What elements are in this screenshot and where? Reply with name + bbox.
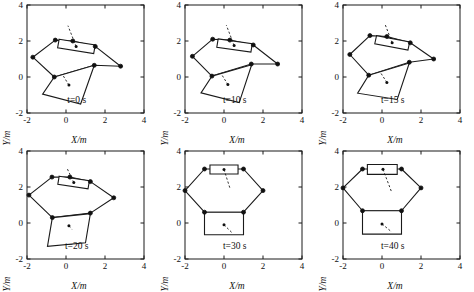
y-tick-label: 0 bbox=[19, 218, 24, 228]
x-tick-label: 2 bbox=[103, 115, 108, 125]
plot-panel-40s: -2024-2024t=40 sX/mY/m bbox=[316, 146, 474, 292]
joint-marker-core bbox=[51, 176, 53, 178]
y-tick-label: -2 bbox=[332, 108, 340, 118]
x-axis-label: X/m bbox=[158, 135, 316, 145]
joint-marker-core bbox=[53, 76, 55, 78]
x-tick-label: 2 bbox=[419, 115, 424, 125]
y-tick-label: -2 bbox=[16, 108, 24, 118]
x-tick-label: 2 bbox=[103, 261, 108, 271]
lower-platform bbox=[358, 63, 410, 100]
time-stamp-label: t=15 s bbox=[381, 95, 405, 105]
y-tick-label: 0 bbox=[177, 72, 182, 82]
plot-canvas: -2024-2024t=30 s bbox=[158, 146, 316, 292]
joint-marker-core bbox=[362, 210, 364, 212]
y-tick-label: 4 bbox=[177, 0, 182, 10]
joint-marker-core bbox=[69, 176, 71, 178]
x-axis-label: X/m bbox=[158, 281, 316, 291]
x-tick-label: 2 bbox=[261, 115, 266, 125]
x-tick-label: 4 bbox=[142, 261, 147, 271]
joint-marker-core bbox=[408, 61, 410, 63]
x-tick-label: 4 bbox=[142, 115, 147, 125]
joint-marker-core bbox=[93, 64, 95, 66]
joint-marker-core bbox=[277, 63, 279, 65]
lower-platform-center-marker bbox=[223, 223, 226, 226]
y-tick-label: 2 bbox=[19, 36, 24, 46]
joint-marker-core bbox=[120, 65, 122, 67]
x-tick-label: 0 bbox=[222, 261, 227, 271]
y-axis-label: Y/m bbox=[160, 244, 170, 292]
upper-module-center-marker bbox=[75, 45, 78, 48]
y-tick-label: 2 bbox=[177, 36, 182, 46]
x-tick-label: 2 bbox=[261, 261, 266, 271]
y-axis-label: Y/m bbox=[2, 244, 12, 292]
joint-marker-core bbox=[192, 55, 194, 57]
y-tick-label: 2 bbox=[335, 36, 340, 46]
x-tick-label: 4 bbox=[300, 115, 305, 125]
joint-marker-core bbox=[250, 63, 252, 65]
plot-canvas: -2024-2024t=15 s bbox=[316, 0, 474, 146]
y-tick-label: 4 bbox=[19, 0, 24, 10]
joint-marker-core bbox=[28, 194, 30, 196]
x-axis-label: X/m bbox=[0, 281, 158, 291]
upper-module-center-marker bbox=[391, 41, 394, 44]
plot-panel-30s: -2024-2024t=30 sX/mY/m bbox=[158, 146, 316, 292]
joint-marker-core bbox=[369, 35, 371, 37]
x-axis-label: X/m bbox=[316, 281, 474, 291]
joint-marker-core bbox=[401, 168, 403, 170]
joint-marker-core bbox=[89, 212, 91, 214]
y-tick-label: 0 bbox=[19, 72, 24, 82]
joint-marker-core bbox=[362, 168, 364, 170]
y-axis-label: Y/m bbox=[318, 244, 328, 292]
lower-platform-center-marker bbox=[67, 224, 70, 227]
joint-marker-core bbox=[184, 190, 186, 192]
time-stamp-label: t=40 s bbox=[381, 241, 405, 251]
joint-marker-core bbox=[349, 54, 351, 56]
plot-canvas: -2024-2024t=0 s bbox=[0, 0, 158, 146]
y-tick-label: 4 bbox=[19, 146, 24, 156]
time-stamp-label: t=20 s bbox=[65, 241, 89, 251]
upper-module-center-marker bbox=[223, 168, 226, 171]
time-stamp-label: t=10 s bbox=[223, 95, 247, 105]
lower-platform-center-marker bbox=[385, 81, 388, 84]
joint-marker-core bbox=[113, 197, 115, 199]
plot-panel-0s: -2024-2024t=0 sX/mY/m bbox=[0, 0, 158, 146]
y-tick-label: 2 bbox=[177, 182, 182, 192]
x-tick-label: -2 bbox=[181, 261, 189, 271]
plot-canvas: -2024-2024t=20 s bbox=[0, 146, 158, 292]
joint-marker-core bbox=[211, 75, 213, 77]
joint-marker-core bbox=[72, 40, 74, 42]
joint-marker-core bbox=[368, 74, 370, 76]
upper-module-center-marker bbox=[233, 44, 236, 47]
plot-panel-10s: -2024-2024t=10 sX/mY/m bbox=[158, 0, 316, 146]
plot-canvas: -2024-2024t=10 s bbox=[158, 0, 316, 146]
lower-platform-center-marker bbox=[381, 222, 384, 225]
x-tick-label: -2 bbox=[23, 115, 31, 125]
joint-marker-core bbox=[89, 181, 91, 183]
y-tick-label: 4 bbox=[335, 146, 340, 156]
joint-marker-core bbox=[204, 168, 206, 170]
joint-marker-core bbox=[243, 168, 245, 170]
y-tick-label: -2 bbox=[174, 108, 182, 118]
x-tick-label: -2 bbox=[181, 115, 189, 125]
joint-marker-core bbox=[54, 39, 56, 41]
joint-marker-core bbox=[212, 38, 214, 40]
figure-panel-grid: -2024-2024t=0 sX/mY/m-2024-2024t=10 sX/m… bbox=[0, 0, 474, 292]
linkage-chain bbox=[343, 169, 421, 211]
y-tick-label: 4 bbox=[177, 146, 182, 156]
plot-panel-20s: -2024-2024t=20 sX/mY/m bbox=[0, 146, 158, 292]
x-tick-label: 0 bbox=[64, 261, 69, 271]
y-tick-label: 2 bbox=[335, 182, 340, 192]
joint-marker-core bbox=[433, 58, 435, 60]
x-tick-label: 0 bbox=[222, 115, 227, 125]
x-tick-label: -2 bbox=[339, 115, 347, 125]
plot-panel-15s: -2024-2024t=15 sX/mY/m bbox=[316, 0, 474, 146]
joint-marker-core bbox=[32, 56, 34, 58]
x-axis-label: X/m bbox=[316, 135, 474, 145]
joint-marker-core bbox=[229, 39, 231, 41]
x-tick-label: -2 bbox=[339, 261, 347, 271]
x-tick-label: -2 bbox=[23, 261, 31, 271]
linkage-chain bbox=[185, 169, 263, 212]
x-tick-label: 2 bbox=[419, 261, 424, 271]
plot-canvas: -2024-2024t=40 s bbox=[316, 146, 474, 292]
joint-marker-core bbox=[342, 187, 344, 189]
